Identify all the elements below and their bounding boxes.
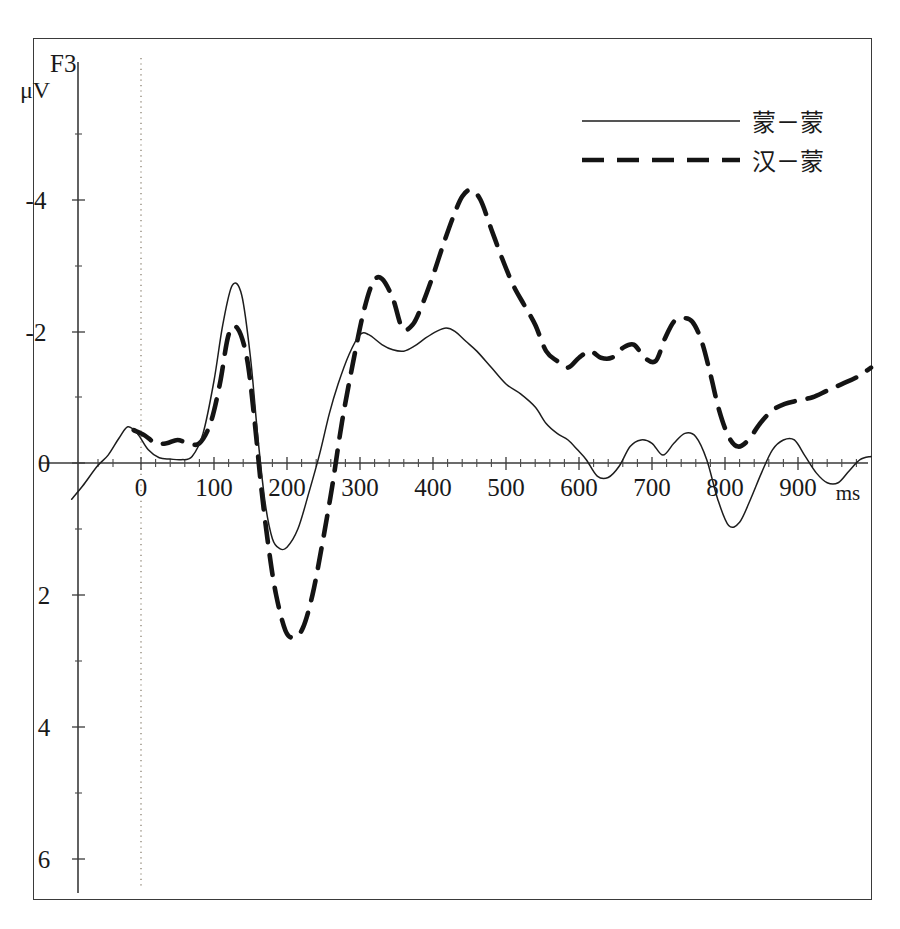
- legend: 蒙－蒙 汉－蒙: [582, 109, 824, 176]
- y-axis-unit-label: μV: [20, 77, 51, 103]
- waveform-han-meng: [134, 190, 871, 638]
- x-tick-label-400: 400: [414, 474, 452, 501]
- legend-label-dashed: 汉－蒙: [752, 148, 824, 176]
- y-tick-label-0: 0: [38, 450, 51, 477]
- legend-label-solid: 蒙－蒙: [752, 109, 824, 137]
- channel-label: F3: [50, 50, 76, 77]
- y-tick-label-6: 6: [38, 846, 51, 873]
- x-tick-label-100: 100: [195, 474, 233, 501]
- x-tick-label-500: 500: [487, 474, 525, 501]
- x-tick-label-900: 900: [779, 474, 817, 501]
- x-tick-label-700: 700: [633, 474, 671, 501]
- erp-plot: F3 μV -4 -2 0 2 4 6 0 100 200 300 400 50…: [0, 0, 900, 929]
- y-tick-label-2: 2: [38, 582, 51, 609]
- x-tick-label-200: 200: [268, 474, 306, 501]
- erp-figure: F3 μV -4 -2 0 2 4 6 0 100 200 300 400 50…: [0, 0, 900, 929]
- waveform-meng-meng: [72, 283, 871, 550]
- y-tick-label-minus2: -2: [26, 319, 47, 346]
- y-tick-label-4: 4: [38, 714, 51, 741]
- x-axis-unit-label: ms: [836, 481, 861, 505]
- x-tick-label-300: 300: [341, 474, 379, 501]
- x-tick-label-600: 600: [560, 474, 598, 501]
- x-tick-label-0: 0: [135, 474, 148, 501]
- y-tick-label-minus4: -4: [26, 187, 47, 214]
